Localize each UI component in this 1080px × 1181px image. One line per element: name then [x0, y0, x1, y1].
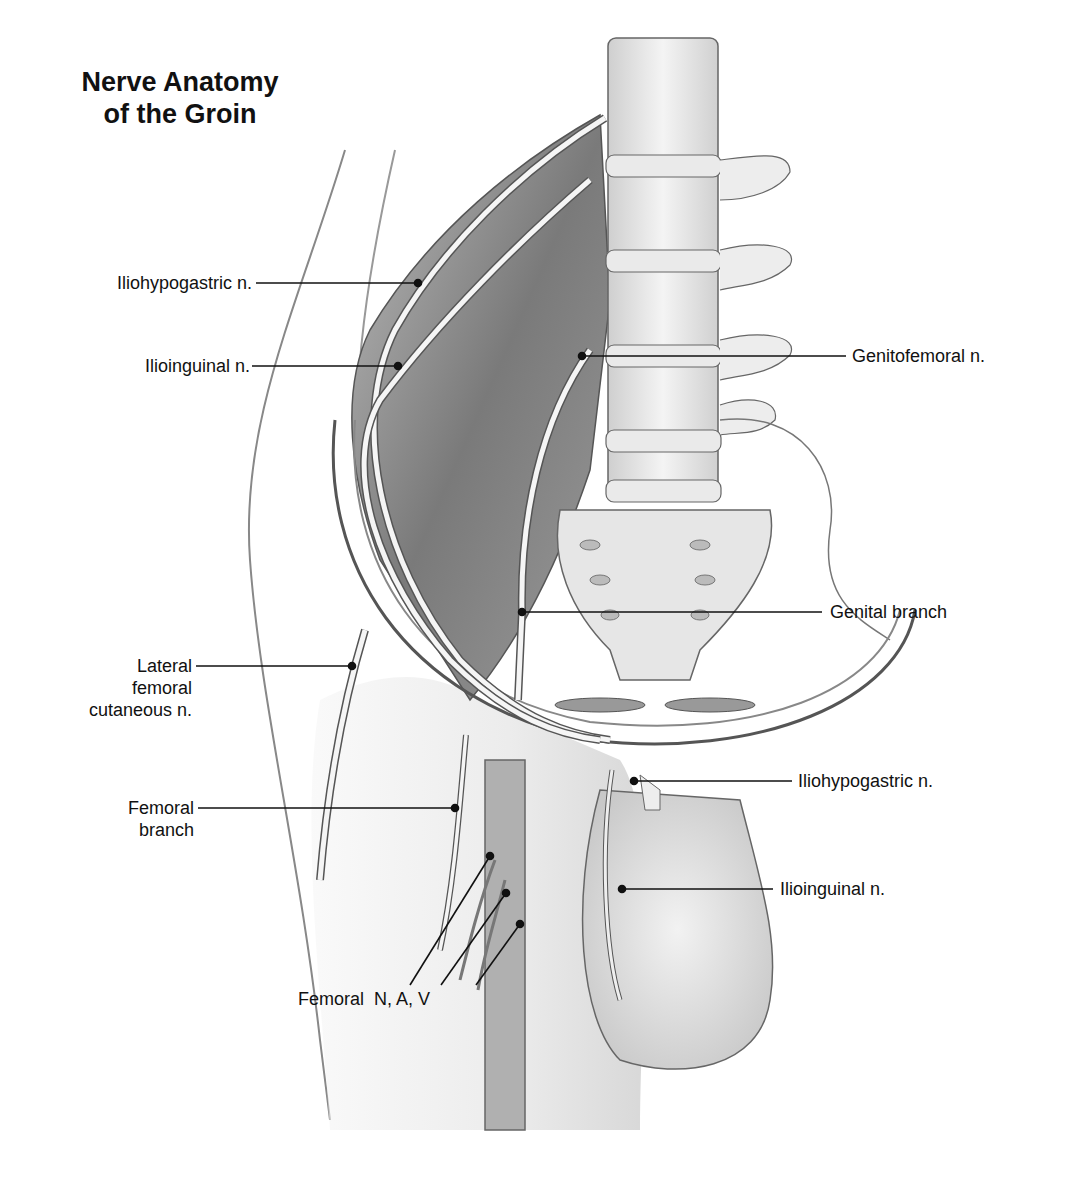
pubic-bone-right: [665, 698, 755, 712]
label-lfc-line-3: cutaneous n.: [40, 699, 192, 721]
figure-title: Nerve Anatomy of the Groin: [60, 66, 300, 130]
label-fb-line-2: branch: [40, 819, 194, 841]
label-femoral-branch: Femoral branch: [40, 797, 194, 841]
label-ilioinguinal-upper: Ilioinguinal n.: [60, 355, 250, 377]
label-iliohypogastric-lower: Iliohypogastric n.: [798, 770, 933, 792]
label-lateral-femoral-cutaneous: Lateral femoral cutaneous n.: [40, 655, 192, 721]
anatomy-figure: Nerve Anatomy of the Groin Iliohypogastr…: [0, 0, 1080, 1181]
sacrum: [557, 510, 771, 680]
label-genitofemoral: Genitofemoral n.: [852, 345, 985, 367]
lumbar-spine: [606, 38, 792, 502]
label-lfc-line-1: Lateral: [40, 655, 192, 677]
label-ilioinguinal-lower: Ilioinguinal n.: [780, 878, 885, 900]
title-line-1: Nerve Anatomy: [60, 66, 300, 98]
label-genital-branch: Genital branch: [830, 601, 947, 623]
title-line-2: of the Groin: [60, 98, 300, 130]
label-iliohypogastric-upper: Iliohypogastric n.: [60, 272, 252, 294]
label-fb-line-1: Femoral: [40, 797, 194, 819]
label-femoral-nav: Femoral N, A, V: [298, 988, 430, 1010]
groin-anatomy-illustration: [0, 0, 1080, 1181]
pubic-bone-left: [555, 698, 645, 712]
external-genitalia: [583, 770, 773, 1069]
label-lfc-line-2: femoral: [40, 677, 192, 699]
